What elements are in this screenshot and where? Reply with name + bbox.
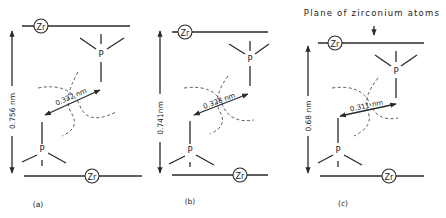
p-atom-upper: P [98, 49, 103, 59]
p-atom-lower: P [39, 144, 44, 154]
plane-title: Plane of zirconium atoms [304, 8, 440, 18]
interlayer-distance-label: 0.741nm [156, 101, 165, 135]
zr-label: Zr [236, 172, 245, 181]
p-atom-lower: P [187, 145, 192, 155]
zr-label: Zr [37, 23, 46, 32]
p-atom-upper: P [393, 66, 398, 76]
panel-label: (a) [33, 200, 44, 209]
panel-a: Zr Zr P P 0.332 nm 0.756 nm (a) [8, 19, 142, 209]
panel-c: Zr Zr P P 0.311 nm 0.68 nm (c) [304, 36, 424, 208]
zr-label: Zr [181, 29, 190, 38]
interlayer-distance-label: 0.756 nm [8, 93, 17, 129]
zr-label: Zr [88, 173, 97, 182]
panel-label: (c) [338, 199, 348, 208]
p-atom-lower: P [335, 145, 340, 155]
zr-label: Zr [385, 173, 394, 182]
zr-label: Zr [331, 40, 340, 49]
p-p-distance-label: 0.311 nm [349, 99, 384, 114]
panel-label: (b) [185, 197, 196, 206]
zirconium-phosphate-layer-diagram: Plane of zirconium atoms Zr Zr P P 0.332… [0, 0, 446, 218]
interlayer-distance-label: 0.68 nm [304, 100, 313, 131]
p-atom-upper: P [247, 54, 252, 64]
panel-b: Zr Zr P P 0.328 nm 0.741nm (b) [156, 25, 269, 206]
